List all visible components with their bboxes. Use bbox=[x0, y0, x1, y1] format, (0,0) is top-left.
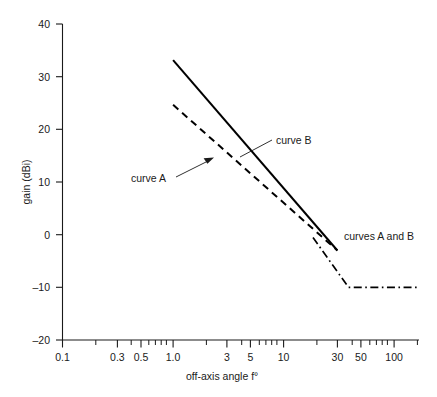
annotation-curves-a-and-b: curves A and B bbox=[344, 230, 414, 242]
x-tick-label-0p3: 0.3 bbox=[110, 351, 125, 363]
series-curve-a bbox=[173, 105, 337, 251]
chart-figure: 40 30 20 10 0 –10 –20 gain (dBi) bbox=[0, 0, 437, 397]
annotation-curves-a-and-b-label: curves A and B bbox=[344, 230, 414, 242]
y-axis-title: gain (dBi) bbox=[20, 160, 32, 205]
x-tick-label-0p1: 0.1 bbox=[55, 351, 70, 363]
x-tick-label-0p5: 0.5 bbox=[134, 351, 149, 363]
x-tick-label-100: 100 bbox=[385, 351, 403, 363]
x-ticks-minor-group bbox=[96, 340, 418, 345]
y-tick-label-neg10: –10 bbox=[32, 281, 50, 293]
annotation-curve-a-leader bbox=[176, 160, 210, 177]
y-tick-label-neg20: –20 bbox=[32, 334, 50, 346]
annotation-curve-a: curve A bbox=[131, 158, 214, 184]
chart-svg: 40 30 20 10 0 –10 –20 gain (dBi) bbox=[0, 0, 437, 397]
y-tick-label-10: 10 bbox=[38, 176, 50, 188]
x-tick-label-3: 3 bbox=[224, 351, 230, 363]
y-ticks-group bbox=[56, 24, 63, 340]
annotation-curve-a-label: curve A bbox=[131, 172, 166, 184]
x-tick-label-1p0: 1.0 bbox=[166, 351, 181, 363]
y-tick-label-30: 30 bbox=[38, 71, 50, 83]
x-axis-title: off-axis angle f° bbox=[186, 370, 258, 382]
annotation-curve-b-label: curve B bbox=[276, 134, 312, 146]
x-tick-label-10: 10 bbox=[278, 351, 290, 363]
series-curves-a-and-b bbox=[313, 238, 418, 288]
x-tick-label-5: 5 bbox=[247, 351, 253, 363]
y-tick-label-20: 20 bbox=[38, 123, 50, 135]
y-tick-label-40: 40 bbox=[38, 18, 50, 30]
x-tick-label-30: 30 bbox=[332, 351, 344, 363]
x-tick-labels-group: 0.1 0.3 0.5 1.0 3 5 10 30 50 100 bbox=[55, 351, 403, 363]
annotation-curve-b: curve B bbox=[240, 134, 312, 157]
x-ticks-major-group bbox=[63, 340, 395, 348]
data-series-group bbox=[173, 60, 418, 287]
y-tick-label-0: 0 bbox=[44, 229, 50, 241]
axes-group bbox=[63, 24, 420, 340]
series-curve-b bbox=[173, 60, 337, 250]
x-tick-label-50: 50 bbox=[355, 351, 367, 363]
y-tick-labels-group: 40 30 20 10 0 –10 –20 bbox=[32, 18, 50, 346]
